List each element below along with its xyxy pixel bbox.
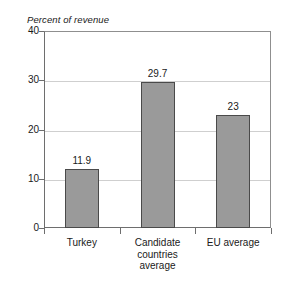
x-axis-label-turkey: Turkey — [44, 237, 120, 249]
y-tick-mark-30 — [39, 80, 44, 81]
bar-value-label-turkey: 11.9 — [52, 156, 112, 166]
y-tick-label-10: 10 — [28, 174, 39, 184]
x-axis-tick-2 — [195, 228, 196, 234]
bar-turkey — [65, 169, 99, 228]
y-axis-caption: Percent of revenue — [27, 14, 109, 25]
x-axis-label-candidate-countries-average: Candidate countries average — [120, 237, 196, 272]
x-axis-label-eu-average: EU average — [195, 237, 271, 249]
y-tick-mark-10 — [39, 179, 44, 180]
x-axis-tick-start — [44, 228, 45, 234]
x-axis-tick-end — [271, 228, 272, 234]
y-tick-mark-40 — [39, 31, 44, 32]
bar-eu-average — [216, 115, 250, 228]
x-axis-tick-1 — [120, 228, 121, 234]
bar-value-label-eu-average: 23 — [203, 102, 263, 112]
y-tick-mark-20 — [39, 130, 44, 131]
y-tick-label-20: 20 — [28, 125, 39, 135]
y-axis-tick-labels: 40 30 20 10 0 — [18, 0, 39, 283]
bar-chart-figure: Percent of revenue 40 30 20 10 0 11.9 29… — [0, 0, 288, 283]
bar-candidate-countries-average — [141, 82, 175, 228]
y-tick-label-30: 30 — [28, 75, 39, 85]
bar-value-label-candidate-countries-average: 29.7 — [128, 69, 188, 79]
y-tick-label-40: 40 — [28, 26, 39, 36]
y-tick-label-0: 0 — [33, 223, 39, 233]
